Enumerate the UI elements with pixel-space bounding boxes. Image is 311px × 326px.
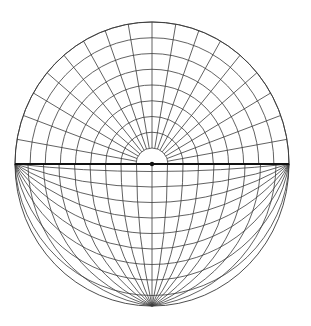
projection-net-svg <box>0 0 311 326</box>
radial-line <box>23 115 137 158</box>
radial-line <box>167 115 281 158</box>
radial-line <box>64 55 142 152</box>
pole-arc-right <box>152 164 168 306</box>
radial-line <box>160 41 221 150</box>
lower-wulff-net <box>15 164 289 306</box>
radial-line <box>128 24 149 148</box>
pole-arc-left <box>137 164 153 306</box>
radial-line <box>157 31 198 149</box>
radial-line <box>105 31 146 149</box>
upper-polar-grid <box>15 22 289 164</box>
radial-line <box>166 93 271 156</box>
radial-line <box>155 24 176 148</box>
radial-line <box>33 93 138 156</box>
center-dot <box>150 162 154 166</box>
radial-line <box>47 73 140 154</box>
radial-line <box>168 139 287 161</box>
radial-line <box>162 55 240 152</box>
radial-line <box>164 73 257 154</box>
projection-net-diagram <box>0 0 311 326</box>
radial-line <box>84 41 145 150</box>
radial-line <box>17 139 136 161</box>
